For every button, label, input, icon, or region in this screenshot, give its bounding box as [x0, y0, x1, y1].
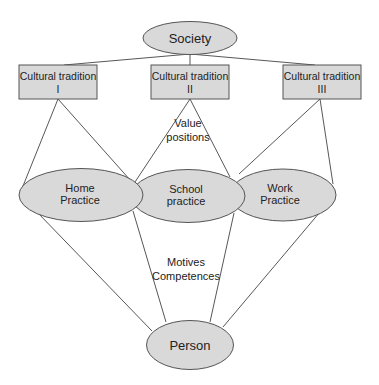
node-tradition-2: Cultural tradition II — [151, 65, 229, 99]
node-school: School practice — [131, 170, 245, 223]
node-society: Society — [143, 22, 237, 55]
school-label-line2: practice — [167, 195, 206, 207]
edge-society-tradition-3 — [190, 54, 315, 65]
node-tradition-1: Cultural tradition I — [19, 65, 97, 99]
school-label-line1: School — [169, 183, 203, 195]
tradition-3-label-line1: Cultural tradition — [284, 70, 361, 82]
tradition-1-label-line1: Cultural tradition — [20, 70, 97, 82]
value-positions-line1: Value — [174, 117, 201, 129]
edge-tradition-3-school-work — [239, 99, 320, 174]
annotation-motives-competences: Motives Competences — [152, 256, 220, 282]
value-positions-line2: positions — [166, 131, 210, 143]
edge-home-person — [37, 212, 152, 331]
tradition-1-label-line2: I — [57, 83, 60, 95]
node-tradition-3: Cultural tradition III — [283, 65, 361, 99]
node-home: Home Practice — [19, 169, 143, 222]
tradition-3-label-line2: III — [318, 83, 327, 95]
motives-line: Motives — [167, 256, 205, 268]
competences-line: Competences — [152, 270, 220, 282]
edge-society-tradition-1 — [64, 54, 190, 65]
edge-work-person — [223, 212, 320, 327]
society-label: Society — [169, 31, 212, 46]
annotation-value-positions: Value positions — [166, 117, 210, 143]
edge-school-work-person — [210, 213, 234, 322]
node-person: Person — [147, 321, 234, 370]
home-label-line2: Practice — [60, 194, 100, 206]
node-work: Work Practice — [230, 169, 336, 221]
person-label: Person — [169, 338, 210, 353]
edge-tradition-3-work — [320, 99, 333, 184]
edge-home-school-person — [133, 211, 166, 322]
home-label-line1: Home — [65, 182, 94, 194]
work-label-line2: Practice — [260, 194, 300, 206]
tradition-2-label-line1: Cultural tradition — [152, 70, 229, 82]
work-label-line1: Work — [267, 182, 293, 194]
diagram-canvas: Society Cultural tradition I Cultural tr… — [0, 0, 379, 385]
tradition-2-label-line2: II — [187, 83, 193, 95]
